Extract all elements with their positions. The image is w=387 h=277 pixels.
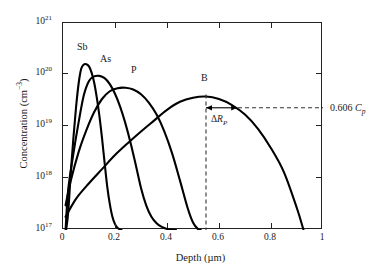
y-tick-exponent: 19 bbox=[45, 117, 52, 125]
x-axis-title-text: Depth (µm) bbox=[162, 252, 226, 263]
y-tick-mark-right bbox=[316, 177, 321, 178]
y-tick-mantissa: 10 bbox=[36, 119, 46, 129]
level-symbol-c: C bbox=[355, 102, 362, 113]
y-axis-title-text: Concentration (cm bbox=[18, 90, 29, 168]
y-tick-mantissa: 10 bbox=[36, 16, 46, 26]
y-tick-label-1e20: 1020 bbox=[10, 68, 52, 78]
curve-label-p: P bbox=[131, 64, 137, 75]
x-tick-label-0p4: 0.4 bbox=[146, 232, 186, 242]
y-tick-mark-right bbox=[316, 73, 321, 74]
y-axis-title-tail: ) bbox=[18, 79, 29, 83]
straggle-arrow-head-left bbox=[206, 105, 212, 110]
y-tick-exponent: 17 bbox=[45, 221, 52, 229]
implant-profile-figure: 1021 1020 1019 1018 1017 Concentration (… bbox=[0, 0, 387, 277]
y-tick-exponent: 20 bbox=[45, 65, 52, 73]
x-axis-title: Depth (µm) bbox=[0, 252, 387, 263]
x-tick-label-0: 0 bbox=[42, 232, 82, 242]
y-tick-exponent: 21 bbox=[45, 14, 52, 22]
dopant-curve-b bbox=[66, 96, 304, 230]
y-tick-label-1e19: 1019 bbox=[10, 120, 52, 130]
y-tick-mark-right bbox=[316, 125, 321, 126]
x-tick-mark bbox=[115, 223, 116, 228]
y-tick-mark bbox=[63, 73, 68, 74]
straggle-subscript: P bbox=[223, 119, 227, 127]
x-tick-label-1: 1 bbox=[302, 232, 342, 242]
x-tick-mark-top bbox=[271, 23, 272, 28]
y-tick-label-1e18: 1018 bbox=[10, 172, 52, 182]
y-axis-title: Concentration (cm−3) bbox=[18, 54, 29, 194]
y-tick-exponent: 18 bbox=[45, 169, 52, 177]
curve-label-sb: Sb bbox=[77, 41, 88, 52]
curve-label-as: As bbox=[100, 53, 111, 64]
curve-label-b: B bbox=[201, 72, 208, 83]
dopant-curve-p bbox=[66, 88, 201, 230]
x-tick-label-0p2: 0.2 bbox=[94, 232, 134, 242]
x-tick-mark-top bbox=[219, 23, 220, 28]
dopant-curve-as bbox=[66, 76, 177, 230]
y-tick-mantissa: 10 bbox=[36, 171, 46, 181]
y-tick-mark bbox=[63, 177, 68, 178]
straggle-annotation-label: ΔRP bbox=[211, 114, 227, 124]
y-axis-title-exponent: −3 bbox=[15, 82, 24, 90]
x-tick-mark-top bbox=[115, 23, 116, 28]
level-value: 0.606 bbox=[330, 102, 355, 113]
level-subscript-p: p bbox=[362, 107, 366, 116]
y-tick-mark bbox=[63, 125, 68, 126]
x-tick-mark bbox=[167, 223, 168, 228]
x-tick-mark-top bbox=[167, 23, 168, 28]
dopant-curves bbox=[66, 64, 304, 230]
x-tick-mark bbox=[219, 223, 220, 228]
x-tick-label-0p6: 0.6 bbox=[198, 232, 238, 242]
y-tick-mantissa: 10 bbox=[36, 67, 46, 77]
y-tick-label-1e21: 1021 bbox=[10, 17, 52, 27]
x-tick-label-0p8: 0.8 bbox=[250, 232, 290, 242]
concentration-level-label: 0.606 Cp bbox=[330, 102, 365, 113]
x-tick-mark bbox=[271, 223, 272, 228]
